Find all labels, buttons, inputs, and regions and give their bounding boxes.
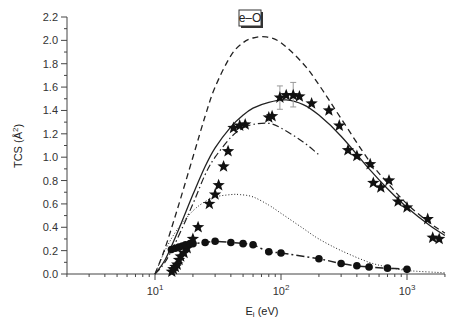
star-marker	[213, 179, 225, 191]
circle-marker	[384, 264, 392, 272]
circle-marker	[201, 239, 209, 247]
y-tick-label: 1.0	[43, 151, 58, 163]
y-tick-label: 1.6	[43, 81, 58, 93]
circle-marker	[315, 255, 323, 263]
legend-box: e–O	[239, 10, 263, 28]
x-tick-label: 101	[147, 283, 164, 297]
circle-marker	[353, 262, 361, 270]
y-tick-label: 1.8	[43, 58, 58, 70]
axes: 0.00.20.40.60.81.01.21.41.61.82.02.21011…	[43, 11, 445, 297]
series-layer	[155, 37, 445, 277]
y-tick-label: 2.2	[43, 11, 58, 23]
star-marker	[392, 195, 404, 207]
star-marker	[217, 160, 229, 172]
circle-marker	[337, 260, 345, 268]
series-solid-curve	[155, 100, 445, 274]
circle-marker	[277, 249, 285, 257]
y-tick-label: 2.0	[43, 34, 58, 46]
star-marker	[192, 221, 204, 233]
y-tick-label: 0.6	[43, 198, 58, 210]
star-marker	[383, 174, 395, 186]
circle-marker	[365, 263, 373, 271]
x-tick-label: 103	[399, 283, 416, 297]
y-tick-label: 1.4	[43, 104, 58, 116]
y-axis-title: TCS (Å2)	[11, 124, 24, 168]
circle-marker	[265, 248, 273, 256]
x-tick-label: 102	[273, 283, 290, 297]
chart-title: e–O	[239, 11, 262, 25]
star-marker	[342, 144, 354, 156]
tcs-chart: 0.00.20.40.60.81.01.21.41.61.82.02.21011…	[0, 0, 455, 325]
series-dashed-curve	[155, 37, 445, 274]
y-tick-label: 0.0	[43, 268, 58, 280]
star-marker	[422, 213, 434, 225]
x-axis-title: Ei (eV)	[246, 305, 279, 319]
y-tick-label: 0.8	[43, 175, 58, 187]
series-filled-circle-markers	[168, 237, 411, 273]
star-marker	[293, 90, 305, 102]
series-star-markers	[166, 82, 446, 276]
star-marker	[203, 197, 215, 209]
circle-marker	[403, 266, 411, 274]
y-tick-label: 0.2	[43, 245, 58, 257]
circle-marker	[227, 239, 235, 247]
circle-marker	[189, 240, 197, 248]
circle-marker	[239, 240, 247, 248]
circle-marker	[249, 241, 257, 249]
star-marker	[364, 158, 376, 170]
y-tick-label: 0.4	[43, 221, 58, 233]
circle-marker	[211, 237, 219, 245]
y-tick-label: 1.2	[43, 128, 58, 140]
